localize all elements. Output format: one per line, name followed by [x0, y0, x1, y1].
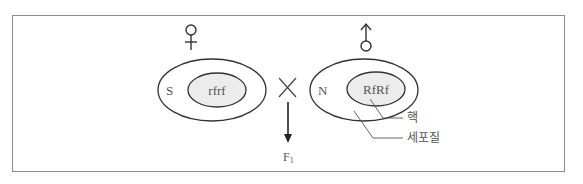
male-cytoplasm-label: N — [318, 83, 328, 98]
cross-diagram: S rfrf F1 N RfRf 핵 세포질 — [0, 0, 583, 184]
cross-icon — [279, 78, 296, 97]
male-cell: N RfRf — [310, 59, 418, 121]
female-cytoplasm-label: S — [166, 83, 173, 98]
female-symbol-icon — [185, 25, 197, 50]
male-symbol-icon — [361, 24, 371, 51]
arrow-down-icon — [284, 102, 292, 143]
nucleus-annotation: 핵 — [407, 111, 418, 125]
female-cell: S rfrf — [158, 59, 266, 121]
cytoplasm-annotation: 세포질 — [407, 131, 440, 145]
male-genotype: RfRf — [363, 82, 390, 97]
female-genotype: rfrf — [208, 83, 226, 98]
offspring-label: F1 — [283, 150, 294, 165]
